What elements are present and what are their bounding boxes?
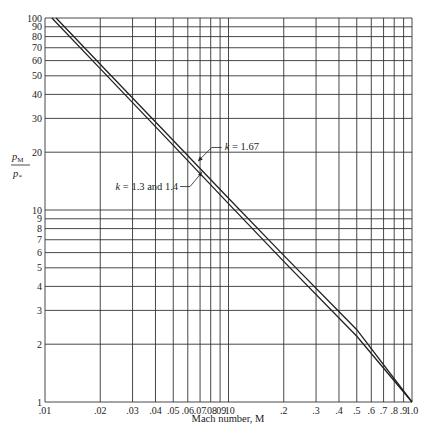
y-tick-label: 20	[32, 147, 42, 158]
x-tick-label: .7	[380, 405, 388, 416]
y-axis-label: pM p*	[11, 151, 30, 181]
y-tick-label: 4	[37, 281, 42, 292]
x-tick-label: .4	[335, 405, 343, 416]
y-tick-label: 7	[37, 234, 42, 245]
y-axis-ticks: 123456789102030405060708090100	[27, 13, 42, 408]
x-tick-label: .6	[368, 405, 376, 416]
x-tick-label: .2	[280, 405, 288, 416]
x-tick-label: .02	[94, 405, 107, 416]
y-tick-label: 30	[32, 113, 42, 124]
y-tick-label: 60	[32, 55, 42, 66]
y-tick-label: 6	[37, 247, 42, 258]
y-tick-label: 100	[27, 13, 42, 24]
svg-text:p*: p*	[12, 168, 22, 181]
x-tick-label: .5	[353, 405, 361, 416]
y-tick-label: 80	[32, 31, 42, 42]
y-tick-label: 70	[32, 42, 42, 53]
grid	[45, 18, 412, 402]
x-tick-label: .04	[149, 405, 162, 416]
y-tick-label: 1	[37, 397, 42, 408]
y-tick-label: 10	[32, 205, 42, 216]
annotation-k-1-67: k = 1.67	[225, 141, 259, 152]
annotations: k = 1.67k = 1.3 and 1.4	[116, 141, 259, 191]
x-tick-label: .05	[167, 405, 180, 416]
chart: .01.02.03.04.05.06.07.08.09.10.2.3.4.5.6…	[0, 0, 426, 427]
annotation-k-1-3-and-1-4: k = 1.3 and 1.4	[116, 181, 179, 192]
x-axis-label: Mach number, M	[192, 413, 265, 424]
x-tick-label: .3	[312, 405, 320, 416]
y-tick-label: 50	[32, 70, 42, 81]
y-tick-label: 8	[37, 223, 42, 234]
y-tick-label: 5	[37, 262, 42, 273]
y-tick-label: 3	[37, 305, 42, 316]
y-tick-label: 40	[32, 89, 42, 100]
x-tick-label: .03	[126, 405, 139, 416]
x-tick-label: .8	[390, 405, 398, 416]
x-tick-label: 1.0	[406, 405, 419, 416]
y-tick-label: 2	[37, 339, 42, 350]
svg-text:pM: pM	[11, 151, 24, 164]
